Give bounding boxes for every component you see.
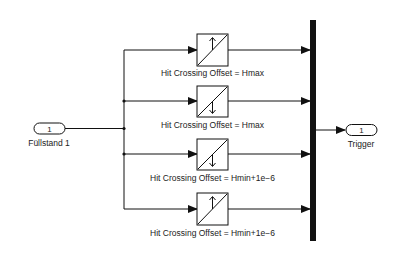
branch-point (122, 127, 125, 130)
inport-fuellstand[interactable]: 1 (34, 123, 65, 134)
mux-bus-bar[interactable] (310, 20, 316, 241)
hit-crossing-label-3: Hit Crossing Offset = Hmin+1e−6 (150, 173, 275, 183)
hit-crossing-block-4[interactable] (197, 193, 228, 225)
inport-number: 1 (47, 125, 52, 134)
inport-label: Füllstand 1 (28, 138, 70, 148)
outport-label: Trigger (348, 139, 375, 149)
hit-crossing-label-4: Hit Crossing Offset = Hmin+1e−6 (150, 228, 275, 238)
hit-crossing-block-1[interactable] (197, 34, 228, 66)
diagram-canvas: 1 Füllstand 1 Hit Crossing Offset = Hmax… (0, 0, 400, 256)
hit-crossing-label-2: Hit Crossing Offset = Hmax (161, 120, 265, 130)
outport-trigger[interactable]: 1 (346, 125, 377, 136)
hit-crossing-label-1: Hit Crossing Offset = Hmax (161, 68, 265, 78)
hit-crossing-block-3[interactable] (197, 139, 228, 170)
outport-number: 1 (359, 126, 364, 135)
hit-crossing-block-2[interactable] (197, 86, 228, 117)
